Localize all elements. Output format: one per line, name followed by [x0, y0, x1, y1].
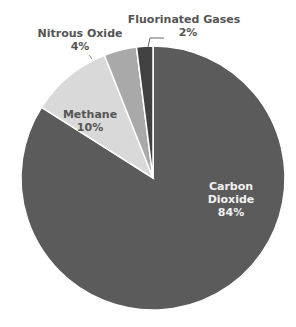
label-carbon-dioxide-line1: Carbon — [196, 180, 266, 193]
label-carbon-dioxide: Carbon Dioxide 84% — [196, 180, 266, 219]
label-methane-pct: 10% — [50, 121, 130, 134]
label-nitrous-oxide: Nitrous Oxide 4% — [30, 27, 130, 53]
label-methane: Methane 10% — [50, 108, 130, 134]
leader-line-nitrous — [89, 55, 92, 59]
label-fluorinated-gases: Fluorinated Gases 2% — [124, 13, 244, 39]
label-nitrous-oxide-name: Nitrous Oxide — [30, 27, 130, 40]
label-nitrous-oxide-pct: 4% — [30, 40, 130, 53]
label-carbon-dioxide-line2: Dioxide — [196, 193, 266, 206]
label-carbon-dioxide-pct: 84% — [196, 206, 266, 219]
label-methane-name: Methane — [50, 108, 130, 121]
label-fluorinated-gases-pct: 2% — [124, 26, 244, 39]
label-fluorinated-gases-name: Fluorinated Gases — [124, 13, 244, 26]
